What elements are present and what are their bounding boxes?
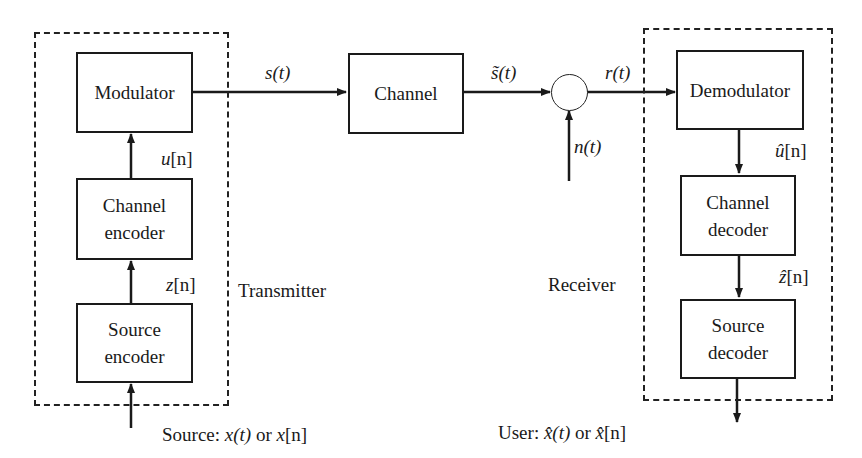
signal-n-t: n(t) [574, 136, 601, 158]
source-decoder-label-line2: decoder [708, 339, 768, 366]
demodulator-block: Demodulator [676, 50, 804, 130]
source-io-label: Source: x(t) or x[n] [162, 424, 307, 446]
demodulator-label: Demodulator [690, 77, 790, 104]
summing-junction [551, 74, 588, 111]
signal-z-n: z[n] [166, 274, 196, 296]
receiver-label: Receiver [548, 274, 616, 296]
channel-block: Channel [348, 53, 464, 134]
channel-encoder-label-line2: encoder [104, 219, 164, 246]
channel-encoder-block: Channel encoder [76, 178, 193, 260]
modulator-label: Modulator [94, 79, 174, 106]
channel-encoder-label-line1: Channel [103, 192, 166, 219]
signal-s-t: s(t) [265, 62, 290, 84]
channel-decoder-block: Channel decoder [680, 175, 796, 256]
modulator-block: Modulator [76, 52, 193, 133]
user-io-label: User: x̂(t) or x̂[n] [498, 422, 626, 444]
signal-z-hat-n: ẑ[n] [779, 266, 809, 288]
signal-u-hat-n: û[n] [775, 140, 807, 162]
source-encoder-label-line2: encoder [104, 343, 164, 370]
source-decoder-label-line1: Source [712, 312, 765, 339]
channel-label: Channel [374, 80, 437, 107]
signal-r-t: r(t) [605, 62, 630, 84]
source-decoder-block: Source decoder [680, 299, 796, 379]
transmitter-label: Transmitter [238, 280, 326, 302]
source-encoder-label-line1: Source [108, 316, 161, 343]
signal-s-tilde-t: s̃(t) [491, 62, 516, 84]
signal-u-n: u[n] [161, 148, 193, 170]
source-encoder-block: Source encoder [76, 303, 193, 383]
channel-decoder-label-line2: decoder [708, 216, 768, 243]
channel-decoder-label-line1: Channel [706, 189, 769, 216]
